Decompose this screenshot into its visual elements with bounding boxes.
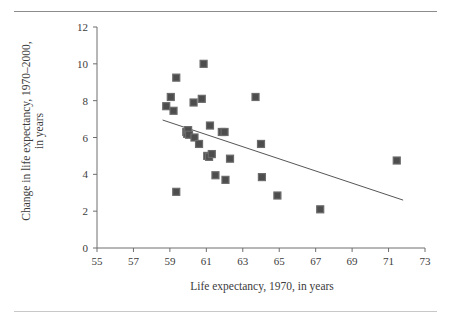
axis-layer [97,27,425,248]
x-tick-label: 73 [420,255,432,267]
data-point [163,103,170,110]
data-point [212,172,219,179]
data-point [258,174,265,181]
trendline-layer [163,120,404,200]
y-tick-label: 8 [83,95,89,107]
data-point [221,128,228,135]
trendline [163,120,404,200]
x-tick-label: 55 [92,255,104,267]
data-point [206,122,213,129]
y-tick-label: 6 [83,132,89,144]
x-tick-label: 63 [237,255,249,267]
data-point [227,155,234,162]
data-point [198,95,205,102]
data-point [200,60,207,67]
x-tick-label: 57 [128,255,140,267]
x-tick-layer: 55575961636567697173 [92,248,432,267]
data-point [252,93,259,100]
y-tick-label: 2 [83,205,89,217]
y-tick-label: 4 [83,168,89,180]
figure-container: 55575961636567697173 024681012 Change in… [0,0,451,317]
data-point [274,192,281,199]
x-axis-label: Life expectancy, 1970, in years [97,280,427,292]
data-point [208,151,215,158]
data-point [173,188,180,195]
data-point [196,140,203,147]
data-point [222,176,229,183]
data-point [173,74,180,81]
x-tick-label: 65 [274,255,286,267]
data-point-layer [163,60,401,212]
x-tick-label: 61 [201,255,212,267]
data-point [170,107,177,114]
data-point [258,140,265,147]
y-axis-label: Change in life expectancy, 1970–2000, in… [20,16,46,246]
data-point [317,206,324,213]
data-point [167,93,174,100]
y-tick-label: 10 [77,58,89,70]
data-point [190,99,197,106]
scatter-plot-svg: 55575961636567697173 024681012 [0,0,451,317]
y-tick-label: 0 [83,242,89,254]
x-tick-label: 71 [383,255,394,267]
x-tick-label: 59 [164,255,176,267]
x-tick-label: 67 [310,255,322,267]
y-tick-layer: 024681012 [77,21,97,254]
y-tick-label: 12 [77,21,88,33]
x-tick-label: 69 [347,255,359,267]
data-point [393,157,400,164]
